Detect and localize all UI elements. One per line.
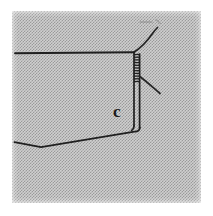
lower-branch-thread-line	[140, 77, 160, 94]
faint-top-tick-mark	[156, 20, 161, 24]
upper-curved-thread-line	[134, 28, 158, 53]
line-drawing	[0, 0, 213, 216]
pocket-outline-path	[15, 128, 140, 148]
reference-label-c: c	[113, 103, 121, 120]
top-horizontal-edge-line	[15, 52, 134, 53]
inner-edge-corner-path	[132, 126, 135, 131]
figure-root: c	[0, 0, 213, 216]
